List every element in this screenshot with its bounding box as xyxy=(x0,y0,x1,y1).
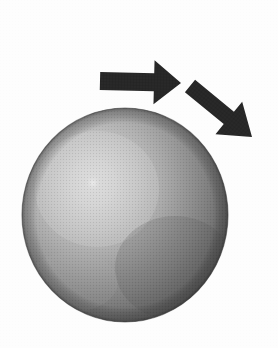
page-scan-grain xyxy=(0,0,278,348)
sphere-arrows-illustration xyxy=(0,0,278,348)
figure-canvas: Shaded sphere with incoming and outgoing… xyxy=(0,0,278,348)
